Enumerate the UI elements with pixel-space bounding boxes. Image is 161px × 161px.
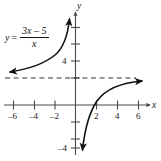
graph-figure: –6 –4 –2 2 4 6 4 –4 x y y = 3x – 5 x <box>0 0 161 161</box>
equation-lhs: y <box>5 33 9 43</box>
equation-numerator: 3x – 5 <box>20 26 48 37</box>
x-axis-label: x <box>152 101 156 111</box>
x-tick-label-minus6: –6 <box>8 112 17 121</box>
equation-denominator: x <box>30 38 38 49</box>
y-axis-label: y <box>77 2 81 12</box>
equation-annotation: y = 3x – 5 x <box>5 26 49 49</box>
y-tick-label-minus4: –4 <box>58 144 67 153</box>
x-tick-label-6: 6 <box>136 112 141 121</box>
x-tick-label-minus4: –4 <box>29 112 38 121</box>
equation-equals-sign: = <box>11 33 17 43</box>
equation-fraction: 3x – 5 x <box>20 26 48 49</box>
x-tick-label-minus2: –2 <box>50 112 59 121</box>
x-tick-label-4: 4 <box>115 112 120 121</box>
y-tick-label-4: 4 <box>62 57 67 66</box>
x-tick-label-2: 2 <box>94 112 99 121</box>
curve-right-branch <box>83 81 143 150</box>
